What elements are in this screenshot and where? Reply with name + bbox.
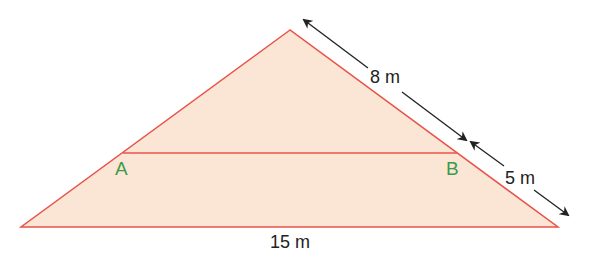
large-triangle	[21, 30, 558, 227]
point-b-label: B	[446, 158, 459, 179]
upper-side-label: 8 m	[370, 67, 400, 87]
dimension-arrow-lower-end	[534, 190, 568, 215]
lower-side-label: 5 m	[505, 168, 535, 188]
dimension-arrow-lower-start	[471, 142, 504, 166]
point-a-label: A	[115, 158, 128, 179]
base-label: 15 m	[270, 232, 310, 252]
triangle-diagram: 8 m 5 m 15 m A B	[0, 0, 590, 264]
